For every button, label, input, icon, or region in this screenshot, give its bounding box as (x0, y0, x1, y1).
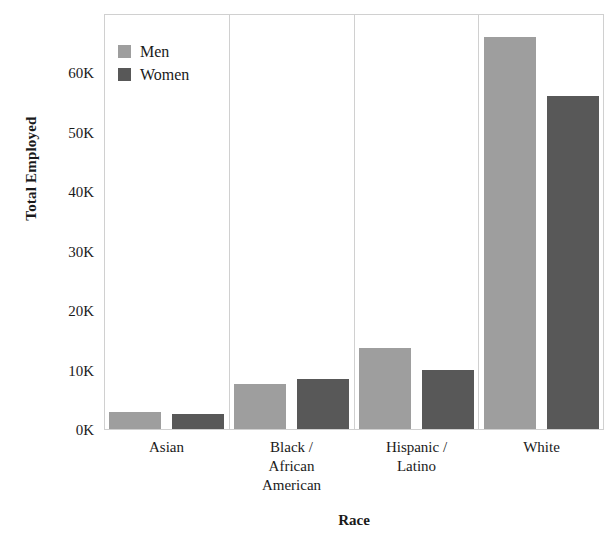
bar-women (172, 414, 224, 429)
bar-men (359, 348, 411, 429)
y-axis-tick-label: 10K (68, 363, 94, 378)
legend-swatch-icon (118, 68, 131, 81)
bar-group (479, 15, 603, 429)
legend-label: Women (140, 63, 189, 86)
bar-group (355, 15, 479, 429)
x-axis-title: Race (104, 512, 604, 529)
x-axis-category-label: Hispanic / Latino (354, 438, 479, 495)
x-axis-category-label: Asian (104, 438, 229, 495)
x-axis-category-label: Black / African American (229, 438, 354, 495)
bar-group (230, 15, 354, 429)
y-axis-tick-label: 40K (68, 185, 94, 200)
legend-item: Women (118, 63, 189, 86)
x-axis-category-label: White (479, 438, 604, 495)
bar-women (547, 96, 599, 429)
facet-panel (230, 15, 355, 429)
bar-chart: Total Employed 60K50K40K30K20K10K0K MenW… (0, 0, 615, 552)
y-axis-tick-label: 0K (76, 423, 94, 438)
y-axis-tick-label: 20K (68, 304, 94, 319)
y-axis-tick-label: 60K (68, 66, 94, 81)
legend-swatch-icon (118, 45, 131, 58)
legend: MenWomen (118, 40, 189, 86)
legend-item: Men (118, 40, 189, 63)
bar-men (109, 412, 161, 429)
bar-men (484, 37, 536, 429)
facet-panel (479, 15, 603, 429)
y-axis-tick-label: 30K (68, 244, 94, 259)
bar-women (297, 379, 349, 430)
bar-men (234, 384, 286, 429)
legend-label: Men (140, 40, 169, 63)
x-axis-categories: AsianBlack / African AmericanHispanic / … (104, 438, 604, 495)
facet-panel (355, 15, 480, 429)
y-axis-tick-label: 50K (68, 125, 94, 140)
y-axis-ticks: 60K50K40K30K20K10K0K (0, 0, 102, 440)
bar-women (422, 370, 474, 429)
